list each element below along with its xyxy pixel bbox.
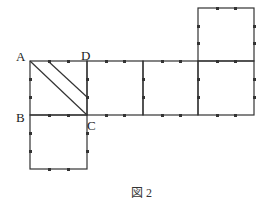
net-square-mid3 [143,61,198,115]
parallel-segment [48,61,87,97]
cube-net-diagram [0,0,261,207]
diagonal-ac [30,61,87,115]
figure-caption: 図 2 [131,187,152,199]
net-square-mid2 [87,61,143,115]
net-square-bottom [30,115,87,169]
label-a: A [16,50,25,63]
net-square-mid4 [198,61,254,115]
label-c: C [87,119,96,132]
net-square-top [198,8,254,61]
label-b: B [16,111,25,124]
label-d: D [81,49,90,62]
